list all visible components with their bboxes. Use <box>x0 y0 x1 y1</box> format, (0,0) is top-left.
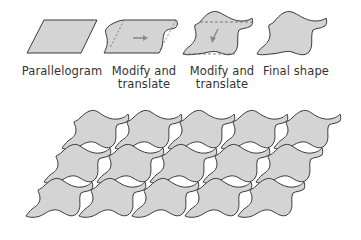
label-final-shape: Final shape <box>258 65 334 78</box>
tessellation <box>26 110 341 217</box>
label-line: Final shape <box>263 64 329 78</box>
label-line: translate <box>196 77 248 91</box>
label-line: Modify and <box>112 64 176 78</box>
parallelogram-shape <box>27 20 97 53</box>
label-line: Parallelogram <box>22 64 103 78</box>
label-modify-translate-1: Modify and translate <box>106 65 182 91</box>
modify-translate-shape-2 <box>183 11 253 54</box>
diagram-canvas <box>0 0 361 240</box>
final-shape <box>257 11 327 54</box>
label-modify-translate-2: Modify and translate <box>184 65 260 91</box>
label-line: translate <box>118 77 170 91</box>
label-parallelogram: Parallelogram <box>20 65 104 78</box>
modify-translate-shape-1 <box>104 20 177 53</box>
label-line: Modify and <box>190 64 254 78</box>
